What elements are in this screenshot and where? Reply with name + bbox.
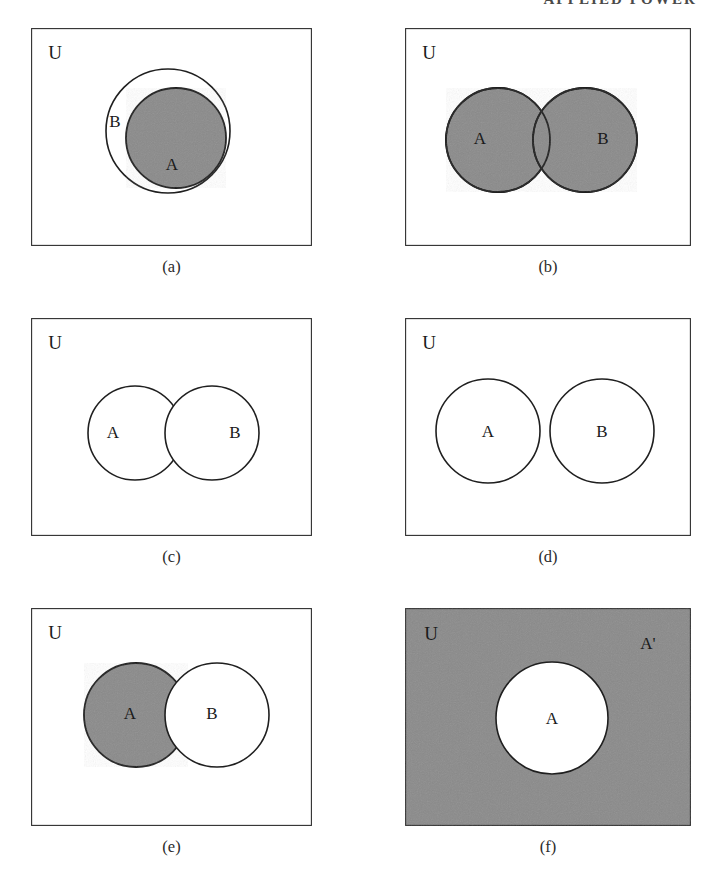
universe-label: U (48, 622, 62, 643)
set-a-label: A (474, 129, 487, 148)
caption-c: (c) (31, 547, 312, 567)
panel-d: U A B (405, 318, 691, 536)
set-a-label: A (124, 704, 137, 723)
caption-f: (f) (405, 837, 691, 857)
set-a-label: A (546, 709, 559, 728)
panel-e: U A B (31, 608, 312, 826)
set-b-label: B (596, 422, 607, 441)
panel-c: U A B (31, 318, 312, 536)
set-b-circle (165, 386, 259, 480)
caption-a: (a) (31, 257, 312, 277)
panel-a: U B A (31, 28, 312, 246)
panel-b: U A B (405, 28, 691, 246)
caption-e: (e) (31, 837, 312, 857)
set-b-label: B (206, 704, 217, 723)
set-b-label: B (597, 129, 608, 148)
set-a-label: A (107, 423, 120, 442)
panel-a-drawing: U B A (31, 28, 312, 246)
panel-f-drawing: U A' A (405, 608, 691, 826)
universe-label: U (422, 42, 436, 63)
caption-d: (d) (405, 547, 691, 567)
venn-diagram-figure: U B A (a) (0, 0, 719, 887)
panel-f: U A' A (405, 608, 691, 826)
universe-label: U (422, 332, 436, 353)
set-b-label: B (229, 423, 240, 442)
panel-e-drawing: U A B (31, 608, 312, 826)
universe-label: U (424, 623, 438, 644)
set-a-label: A (166, 155, 179, 174)
universe-label: U (48, 332, 62, 353)
panel-b-drawing: U A B (405, 28, 691, 246)
set-b-label: B (109, 112, 120, 131)
caption-b: (b) (405, 257, 691, 277)
panel-c-drawing: U A B (31, 318, 312, 536)
complement-label: A' (640, 634, 655, 653)
set-a-label: A (482, 422, 495, 441)
universe-label: U (48, 42, 62, 63)
panel-d-drawing: U A B (405, 318, 691, 536)
